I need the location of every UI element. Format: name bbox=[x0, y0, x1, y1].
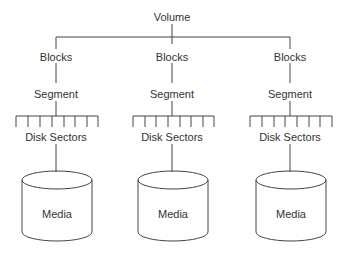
segment-label-2: Segment bbox=[150, 88, 194, 100]
media-label-1: Media bbox=[42, 208, 72, 220]
segment-label-3: Segment bbox=[268, 88, 312, 100]
blocks-label-1: Blocks bbox=[40, 51, 72, 63]
media-cylinder-1 bbox=[22, 171, 92, 241]
volume-label: Volume bbox=[154, 11, 191, 23]
media-label-2: Media bbox=[158, 208, 188, 220]
media-label-3: Media bbox=[276, 208, 306, 220]
segment-label-1: Segment bbox=[34, 88, 78, 100]
media-cylinder-3 bbox=[256, 171, 326, 241]
blocks-label-3: Blocks bbox=[274, 51, 306, 63]
disk-sectors-label-1: Disk Sectors bbox=[25, 131, 87, 143]
blocks-label-2: Blocks bbox=[156, 51, 188, 63]
media-cylinder-2 bbox=[138, 171, 208, 241]
disk-sectors-label-3: Disk Sectors bbox=[259, 131, 321, 143]
disk-sectors-label-2: Disk Sectors bbox=[141, 131, 203, 143]
